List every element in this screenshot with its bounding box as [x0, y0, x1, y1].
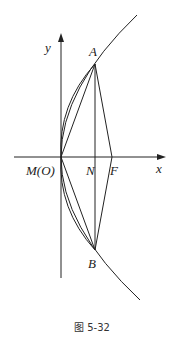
line-FA: [95, 64, 112, 157]
y-axis-arrow-icon: [58, 33, 64, 42]
figure-caption: 图 5-32: [74, 322, 110, 333]
point-N-label: N: [85, 163, 96, 178]
point-B-label: B: [88, 256, 96, 271]
point-F-label: F: [109, 163, 119, 178]
y-axis-label: y: [43, 40, 51, 55]
x-axis-arrow-icon: [157, 154, 166, 160]
point-M-label: M(O): [25, 163, 55, 178]
x-axis-label: x: [155, 161, 162, 176]
point-A-label: A: [88, 44, 97, 59]
line-MA: [61, 64, 95, 157]
parabola-diagram: y x A B M(O) N F 图 5-32: [0, 0, 180, 352]
